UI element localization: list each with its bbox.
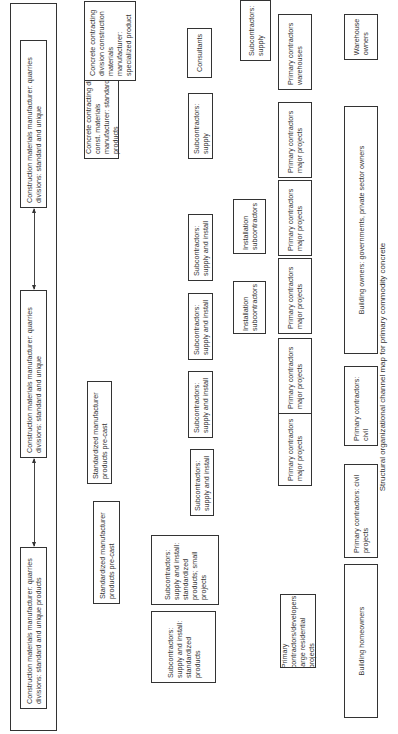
label: Primary contractors warehouses — [286, 19, 304, 85]
sub-standardized-products-box: Subcontractors: supply and install: stan… — [151, 611, 216, 683]
label: Installation subcontractors — [241, 284, 259, 331]
label: Standardized manufacturer products pre-c… — [98, 506, 116, 599]
manufacturer-left-label: Construction materials manufacturer: qua… — [25, 552, 43, 704]
label: Primary contractors: civil — [352, 371, 370, 441]
connector-middle-right — [34, 209, 35, 289]
primary-major-box-2: Primary contractors major projects — [278, 338, 312, 414]
label: Subcontractors: supply and install — [192, 219, 210, 276]
label: Primary contractors: civil projects — [352, 469, 370, 553]
label: Primary contractors major projects — [286, 413, 304, 481]
label: Subcontractors: supply and install: stan… — [166, 616, 202, 678]
primary-major-box-1: Primary contractors major projects — [278, 408, 312, 486]
label: Primary contractors major projects — [286, 263, 304, 329]
sub-supply-install-box-3: Subcontractors: supply and install — [188, 293, 213, 360]
label: Subcontractors: supply — [247, 5, 265, 56]
label: Subcontractors: supply and install — [192, 298, 210, 355]
installation-subcontractors-box-2: Installation subcontractors — [233, 199, 266, 254]
label: Installation subcontractors — [241, 203, 259, 250]
primary-civil-box: Primary contractors: civil — [344, 366, 378, 446]
primary-major-box-4: Primary contractors major projects — [278, 180, 312, 256]
installation-subcontractors-box-1: Installation subcontractors — [233, 281, 266, 334]
diagram-canvas: Construction materials manufacturer: qua… — [0, 0, 398, 734]
label: Building owners: governments, private se… — [357, 146, 366, 315]
building-homeowners-box: Building homeowners — [344, 564, 378, 718]
label: Primary contractors major projects — [286, 107, 304, 173]
manufacturer-middle-label: Construction materials manufacturer: qua… — [25, 295, 43, 453]
figure-caption: Structural organizational channel map fo… — [378, 0, 387, 734]
concrete-specialized-box: Concrete contracting division constructi… — [84, 1, 136, 81]
manufacturer-box-left: Construction materials manufacturer: qua… — [20, 547, 47, 709]
sub-supply-install-box-2: Subcontractors: supply and install — [188, 371, 213, 438]
sub-supply-box-2: Subcontractors: supply — [240, 0, 271, 61]
sub-supply-install-box-1: Subcontractors: supply and install — [190, 449, 214, 516]
manufacturer-box-middle: Construction materials manufacturer: qua… — [20, 290, 47, 458]
label: Concrete contracting division constructi… — [88, 6, 133, 76]
label: Standardized manufacturer products pre-c… — [91, 386, 109, 479]
label: Warehouse owners — [352, 19, 370, 56]
arrow-left-icon — [32, 542, 36, 547]
primary-warehouses-box: Primary contractors warehouses — [278, 14, 312, 90]
label: Primary contractors major projects — [286, 343, 304, 409]
arrow-right-icon — [32, 208, 36, 213]
sub-supply-box-1: Subcontractors: supply — [188, 93, 213, 159]
warehouse-owners-box: Warehouse owners — [344, 14, 378, 60]
label: Subcontractors: supply and install: stan… — [163, 540, 208, 600]
consultants-box: Consultants — [187, 28, 212, 78]
label: Subcontractors: supply and install — [193, 454, 211, 511]
primary-major-box-3: Primary contractors major projects — [278, 258, 312, 334]
primary-major-box-5: Primary contractors major projects — [278, 102, 312, 178]
standardized-precast-box-2: Standardized manufacturer products pre-c… — [87, 381, 112, 484]
building-owners-box: Building owners: governments, private se… — [344, 106, 378, 354]
label: Consultants — [195, 34, 204, 72]
label: Building homeowners — [357, 607, 366, 676]
sub-supply-install-box-4: Subcontractors: supply and install — [188, 214, 213, 281]
sub-standardized-small-box: Subcontractors: supply and install: stan… — [151, 535, 219, 605]
manufacturer-box-right: Construction materials manufacturer: qua… — [20, 40, 47, 208]
manufacturer-right-label: Construction materials manufacturer: qua… — [25, 45, 43, 203]
label: Primary contractors/developers: large re… — [280, 594, 316, 669]
standardized-precast-box-1: Standardized manufacturer products pre-c… — [93, 501, 120, 604]
connector-left-middle — [34, 459, 35, 546]
label: Subcontractors: supply and install — [192, 376, 210, 433]
arrow-right-icon — [32, 458, 36, 463]
primary-civil-projects-box: Primary contractors: civil projects — [344, 464, 378, 558]
label: Primary contractors major projects — [286, 185, 304, 251]
label: Subcontractors: supply — [192, 98, 210, 154]
primary-developers-box: Primary contractors/developers: large re… — [280, 594, 316, 668]
arrow-left-icon — [32, 285, 36, 290]
